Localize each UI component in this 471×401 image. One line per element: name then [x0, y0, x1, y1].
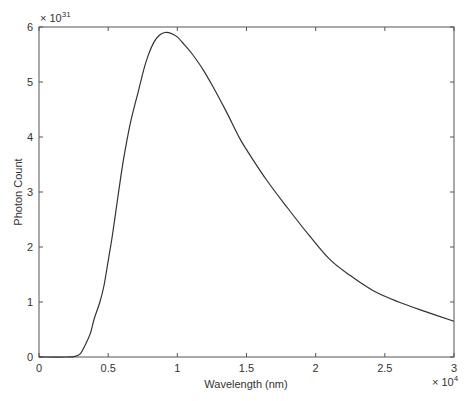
- x-axis-multiplier: × 104: [432, 374, 459, 388]
- x-axis-ticks: 00.511.522.53: [36, 27, 457, 374]
- data-line: [39, 32, 454, 357]
- x-tick-label: 1.5: [239, 362, 254, 374]
- x-tick-label: 2: [313, 362, 319, 374]
- y-tick-label: 1: [27, 296, 33, 308]
- y-axis-label: Photon Count: [12, 158, 24, 225]
- y-tick-label: 4: [27, 131, 33, 143]
- y-tick-label: 6: [27, 21, 33, 33]
- plot-area: [39, 27, 454, 357]
- x-tick-label: 1: [174, 362, 180, 374]
- x-tick-label: 0: [36, 362, 42, 374]
- svg-text:× 104: × 104: [432, 374, 459, 388]
- chart: × 1031 00.511.522.53 0123456 Wavelength …: [0, 0, 471, 401]
- x-tick-label: 3: [451, 362, 457, 374]
- y-tick-label: 3: [27, 186, 33, 198]
- y-axis-ticks: 0123456: [27, 21, 454, 363]
- svg-text:× 1031: × 1031: [40, 10, 71, 24]
- y-axis-multiplier: × 1031: [40, 10, 71, 24]
- y-tick-label: 2: [27, 241, 33, 253]
- y-tick-label: 5: [27, 76, 33, 88]
- y-tick-label: 0: [27, 351, 33, 363]
- x-axis-label: Wavelength (nm): [204, 378, 287, 390]
- x-tick-label: 0.5: [101, 362, 116, 374]
- x-tick-label: 2.5: [377, 362, 392, 374]
